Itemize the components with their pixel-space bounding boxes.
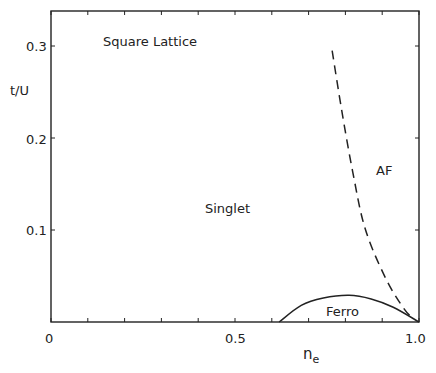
y-tick-0.1: 0.1 [26, 223, 47, 238]
region-label-af: AF [376, 163, 392, 178]
y-axis-label: t/U [10, 83, 29, 98]
phase-diagram: 0.3 0.2 0.1 t/U 0 0.5 1.0 ne Square Latt… [0, 0, 436, 373]
axis-ticks [51, 11, 419, 322]
region-label-singlet: Singlet [205, 201, 250, 216]
x-tick-0.5: 0.5 [225, 331, 246, 346]
chart-title: Square Lattice [103, 34, 197, 49]
x-tick-1.0: 1.0 [405, 331, 426, 346]
region-label-ferro: Ferro [326, 304, 359, 319]
y-tick-0.3: 0.3 [26, 39, 47, 54]
plot-frame [51, 11, 419, 322]
x-axis-label: ne [303, 345, 320, 366]
y-tick-0.2: 0.2 [26, 132, 47, 147]
x-tick-0: 0 [45, 331, 53, 346]
af-boundary-curve [332, 51, 413, 319]
